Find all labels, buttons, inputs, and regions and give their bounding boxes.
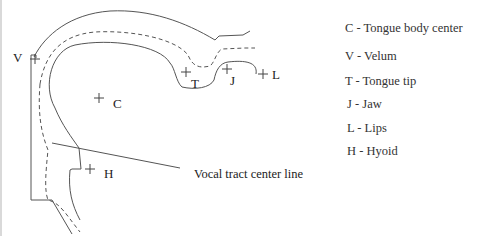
legend-item-v: V - Velum bbox=[345, 50, 397, 63]
label-tongue-tip: T bbox=[191, 77, 199, 90]
center-line-annotation: Vocal tract center line bbox=[194, 168, 303, 181]
pharynx-back-wall bbox=[31, 55, 72, 234]
label-jaw: J bbox=[230, 74, 235, 87]
vocal-tract-diagram bbox=[0, 0, 478, 236]
marker-tongue-body-center bbox=[94, 93, 104, 103]
center-line-dashed bbox=[39, 32, 255, 232]
legend-item-h: H - Hyoid bbox=[347, 145, 398, 158]
label-lips: L bbox=[272, 68, 280, 81]
label-tongue-body-center: C bbox=[113, 97, 122, 110]
outer-vocal-tract-wall bbox=[34, 11, 250, 57]
legend-item-c: C - Tongue body center bbox=[345, 22, 463, 35]
label-velum: V bbox=[13, 51, 22, 64]
legend-item-t: T - Tongue tip bbox=[345, 75, 416, 88]
center-line-pointer bbox=[52, 143, 180, 168]
legend-item-l: L - Lips bbox=[347, 122, 387, 135]
marker-lips bbox=[258, 69, 268, 79]
marker-tongue-tip bbox=[181, 67, 191, 77]
legend-item-j: J - Jaw bbox=[347, 98, 382, 111]
marker-hyoid bbox=[85, 164, 95, 174]
label-hyoid: H bbox=[104, 167, 113, 180]
